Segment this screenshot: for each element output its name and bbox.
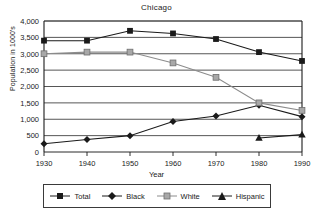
plot-area: 05001,0001,5002,0002,5003,0003,5004,0001…	[0, 0, 313, 185]
data-point-total	[299, 58, 305, 64]
legend-marker-square-icon	[49, 191, 71, 201]
y-tick-label: 3,500	[20, 33, 39, 42]
x-tick-label: 1960	[165, 159, 182, 168]
legend-marker-triangle-icon	[211, 191, 233, 201]
data-point-black	[213, 112, 220, 119]
y-tick-label: 2,000	[20, 82, 39, 91]
chart-figure: Chicago Population in 1000's 05001,0001,…	[0, 0, 313, 213]
legend-marker-circle-icon	[156, 191, 178, 201]
y-tick-label: 500	[26, 131, 39, 140]
series-line-hispanic	[259, 135, 302, 138]
data-point-black	[127, 132, 134, 139]
legend-label-black: Black	[126, 192, 144, 201]
data-point-white	[84, 49, 90, 55]
data-point-black	[41, 140, 48, 147]
y-tick-label: 4,000	[20, 17, 39, 26]
data-point-total	[256, 49, 262, 55]
y-tick-label: 0	[35, 148, 39, 157]
y-tick-label: 3,000	[20, 50, 39, 59]
legend-item-hispanic: Hispanic	[211, 191, 265, 201]
data-point-white	[127, 49, 133, 55]
legend-marker-diamond-icon	[101, 191, 123, 201]
legend-item-black: Black	[101, 191, 144, 201]
data-point-black	[84, 136, 91, 143]
x-tick-label: 1980	[251, 159, 268, 168]
data-point-white	[41, 51, 47, 57]
x-tick-label: 1990	[294, 159, 311, 168]
data-point-white	[213, 74, 219, 80]
chart-legend: Total Black White Hispanic	[43, 184, 271, 208]
y-tick-label: 1,000	[20, 115, 39, 124]
x-tick-label: 1950	[122, 159, 139, 168]
data-point-hispanic	[298, 131, 305, 138]
legend-label-total: Total	[74, 192, 90, 201]
x-tick-label: 1940	[79, 159, 96, 168]
y-tick-label: 1,500	[20, 99, 39, 108]
x-axis-label: Year	[0, 170, 313, 179]
data-point-total	[170, 31, 176, 37]
data-point-white	[299, 108, 305, 114]
x-tick-label: 1970	[208, 159, 225, 168]
data-point-total	[213, 36, 219, 42]
y-tick-label: 2,500	[20, 66, 39, 75]
data-point-total	[84, 38, 90, 44]
legend-item-white: White	[156, 191, 200, 201]
legend-label-hispanic: Hispanic	[236, 192, 265, 201]
x-tick-label: 1930	[36, 159, 53, 168]
line-chart-svg: 05001,0001,5002,0002,5003,0003,5004,0001…	[0, 0, 313, 185]
legend-item-total: Total	[49, 191, 90, 201]
data-point-white	[256, 100, 262, 106]
data-point-white	[170, 60, 176, 66]
data-point-total	[41, 38, 47, 44]
legend-label-white: White	[181, 192, 200, 201]
data-point-total	[127, 28, 133, 34]
